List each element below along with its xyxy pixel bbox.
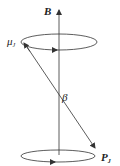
precession-diagram: B μJ β PJ: [0, 0, 120, 166]
moment-label: μJ: [6, 35, 16, 48]
momentum-label: PJ: [101, 151, 112, 164]
bottom-precession-circle: [21, 150, 95, 162]
field-label: B: [43, 5, 51, 17]
angle-label: β: [61, 91, 68, 103]
moment-momentum-line: [25, 44, 95, 148]
